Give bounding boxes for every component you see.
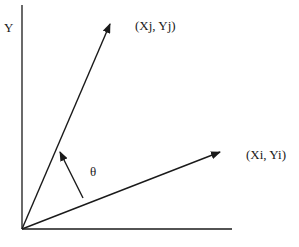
vector-i-label: (Xi, Yi) bbox=[246, 148, 286, 161]
vector-j-arrow bbox=[22, 24, 110, 229]
diagram-canvas bbox=[0, 0, 299, 247]
angle-theta-label: θ bbox=[90, 165, 96, 178]
y-axis-label: Y bbox=[4, 21, 13, 34]
vector-i-arrow bbox=[22, 152, 220, 229]
vector-j-label: (Xj, Yj) bbox=[135, 19, 176, 32]
rotation-arrow bbox=[60, 152, 83, 198]
